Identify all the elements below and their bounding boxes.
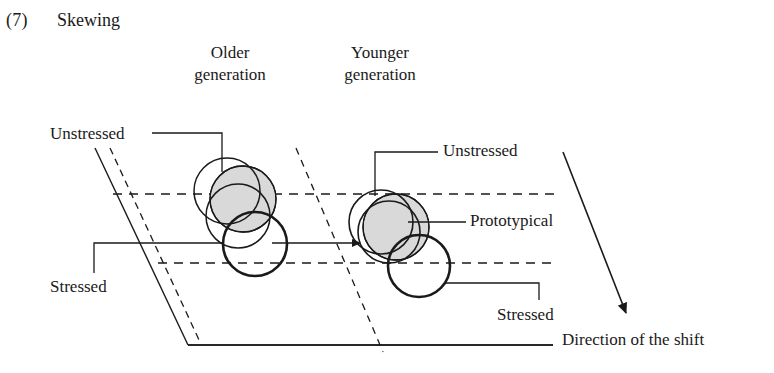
diagram-canvas xyxy=(0,0,774,373)
direction-of-shift-arrow xyxy=(563,152,626,313)
unstressed-left-leader xyxy=(152,133,222,172)
generation-divider-dashed xyxy=(296,148,383,352)
stressed-left-leader xyxy=(94,243,224,273)
older-generation-cluster xyxy=(194,158,287,276)
frame-left-edge-dashed xyxy=(110,148,200,342)
frame-left-edge-solid xyxy=(95,148,188,345)
stressed-right-leader xyxy=(446,283,539,300)
figure-root: (7) Skewing Older generation Younger gen… xyxy=(0,0,774,373)
younger-generation-cluster xyxy=(349,190,450,297)
frame-left-edge-group xyxy=(95,148,200,345)
